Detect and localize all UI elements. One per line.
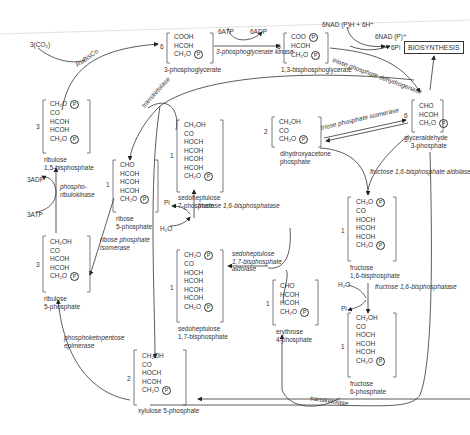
- phosphate-icon: P: [204, 303, 213, 312]
- molecule-ribulose-1-5-bisphosphate: CH₂OP CO HCOH HCOH CH₂OP: [50, 100, 79, 144]
- coef-fbp: 1: [341, 227, 345, 234]
- molecule-fructose-1-6-bisphosphate: CH₂OP CO HOCH HCOH HCOH CH₂OP: [356, 198, 385, 250]
- phosphate-icon: P: [70, 272, 79, 281]
- cofactor-nadp: 6NAD (P)⁺: [375, 33, 407, 41]
- phosphate-icon: P: [311, 51, 320, 60]
- molecule-xylulose-5-phosphate: CH₂OH CO HOCH HCOH CH₂OP: [142, 352, 171, 395]
- coef-bpg: 6: [277, 43, 281, 50]
- coef-3pg: 6: [160, 43, 164, 50]
- label-rubp: ribulose 1,5-bisphosphate: [44, 156, 94, 171]
- molecule-ribulose-5-phosphate: CH₂OH CO HCOH HCOH CH₂OP: [50, 238, 79, 281]
- phosphate-icon: P: [309, 33, 318, 42]
- cofactor-h2o-a: H₂O: [160, 225, 172, 233]
- enzyme-rpe: phosphoketopentose epimerase: [64, 334, 124, 349]
- molecule-fructose-6-phosphate: CH₂OH CO HOCH HCOH HCOH CH₂OP: [356, 314, 385, 366]
- label-dhap: dihydroxyacetone phosphate: [280, 150, 331, 165]
- enzyme-pgk: 3-phosphoglycerate kinase: [216, 48, 294, 56]
- enzyme-rpi: ribose phosphate isomerase: [100, 236, 150, 251]
- label-s7p: sedoheptulose 7-phosphate: [178, 194, 220, 209]
- molecule-3-phosphoglycerate: COOH HCOH CH₂OP: [174, 33, 203, 59]
- phosphate-icon: P: [194, 50, 203, 59]
- coef-e4p: 1: [266, 300, 270, 307]
- label-g3p: glyceraldehyde 3-phosphate: [404, 134, 448, 149]
- coef-f6p: 1: [341, 343, 345, 350]
- label-sbp: sedoheptulose 1,7-bisphosphate: [178, 325, 228, 340]
- coef-xu5p: 2: [127, 375, 131, 382]
- label-3pg: 3-phosphoglycerate: [164, 66, 221, 74]
- cofactor-nadph: 6NAD (P)H + 6H⁺: [322, 21, 374, 29]
- phosphate-icon: P: [162, 386, 171, 395]
- label-fbp: fructose 1,6-bisphosphate: [350, 264, 400, 279]
- co2-input: 3(CO₂): [30, 41, 50, 49]
- molecule-erythrose-4-phosphate: CHO HCOH HCOH CH₂OP: [280, 282, 309, 317]
- enzyme-sba: sedoheptulose 1,7-bisphosphate aldolase: [232, 250, 282, 273]
- enzyme-prk: phospho- ribulokinase: [60, 183, 95, 198]
- biosynthesis-box: BIOSYNTHESIS: [404, 41, 464, 54]
- calvin-cycle-diagram: 3(CO₂) RuBisCo 6ATP 6ADP 3-phosphoglycer…: [0, 0, 470, 435]
- label-ru5p: ribulose 5-phosphate: [44, 295, 80, 310]
- molecule-dihydroxyacetone-phosphate: CH₂OH CO CH₂OP: [279, 118, 308, 144]
- coef-r5p: 1: [106, 181, 110, 188]
- phosphate-icon: P: [439, 119, 448, 128]
- phosphate-icon: P: [70, 135, 79, 144]
- molecule-1-3-bisphosphoglycerate: COOP HCOH CH₂OP: [291, 33, 320, 60]
- cofactor-6adp: 6ADP: [250, 28, 267, 36]
- phosphate-icon: P: [376, 198, 385, 207]
- label-e4p: erythrose 4-phosphate: [276, 328, 312, 343]
- phosphate-icon: P: [376, 357, 385, 366]
- molecule-sedoheptulose-1-7-bisphosphate: CH₂OP CO HOCH HCOH HCOH HCOH CH₂OP: [184, 251, 213, 312]
- molecule-glyceraldehyde-3-phosphate: CHO HCOH CH₂OP: [419, 102, 448, 128]
- label-r5p: ribose 5-phosphate: [116, 215, 152, 230]
- phosphate-icon: P: [204, 251, 213, 260]
- molecule-sedoheptulose-7-phosphate: CH₂OH CO HOCH HCOH HCOH HCOH CH₂OP: [184, 121, 213, 181]
- coef-sbp: 1: [170, 284, 174, 291]
- coef-dhap: 2: [264, 128, 268, 135]
- phosphate-icon: P: [300, 308, 309, 317]
- enzyme-fba: fructose 1,6-bisphosphate aldolase: [370, 168, 470, 176]
- cofactor-h2o-b: H₂O: [338, 281, 350, 289]
- phosphate-icon: P: [376, 241, 385, 250]
- coef-rubp: 3: [36, 123, 40, 130]
- coef-s7p: 1: [170, 152, 174, 159]
- phosphate-icon: P: [140, 195, 149, 204]
- coef-g3p: 6: [404, 112, 408, 119]
- enzyme-fbpase-fbp: fructose 1,6-bisphosphatase: [375, 283, 457, 291]
- phosphate-icon: P: [70, 100, 79, 109]
- cofactor-pi-b: Pi: [341, 305, 347, 313]
- cofactor-6atp: 6ATP: [218, 28, 234, 36]
- coef-ru5p: 3: [36, 261, 40, 268]
- label-xu5p: xylulose 5-phosphate: [138, 407, 199, 415]
- cofactor-3adp: 3ADP: [27, 176, 44, 184]
- label-bpg: 1,3-bisphosphoglycerate: [281, 66, 352, 74]
- cofactor-pi-a: Pi: [164, 199, 170, 207]
- phosphate-icon: P: [204, 172, 213, 181]
- cofactor-3atp: 3ATP: [27, 211, 43, 219]
- label-f6p: fructose 6-phosphate: [350, 380, 386, 395]
- pathway-arrows: [0, 0, 470, 435]
- cofactor-6pi: 6Pi: [391, 44, 400, 52]
- molecule-ribose-5-phosphate: CHO HCOH HCOH HCOH CH₂OP: [120, 161, 149, 204]
- phosphate-icon: P: [299, 135, 308, 144]
